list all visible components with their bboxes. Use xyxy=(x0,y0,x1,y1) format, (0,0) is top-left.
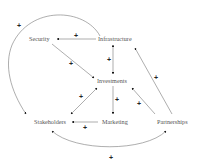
node-marketing: Marketing xyxy=(102,118,128,125)
polarity-investments-marketing: + xyxy=(115,96,119,103)
node-partnerships: Partnerships xyxy=(157,118,188,125)
polarity-security-investments: + xyxy=(69,60,73,67)
node-investments: Investments xyxy=(97,77,127,84)
polarity-partnerships-investments: + xyxy=(137,100,141,107)
polarity-partnerships-infrastructure: + xyxy=(154,74,158,81)
edge-stakeholders-investments xyxy=(71,88,97,114)
polarity-marketing-stakeholders: + xyxy=(83,124,87,131)
polarity-stakeholders-partnerships: + xyxy=(109,154,113,161)
node-security: Security xyxy=(29,35,51,42)
edge-stakeholders-partnerships xyxy=(52,131,166,147)
polarity-infrastructure-investments: + xyxy=(107,56,111,63)
polarity-stakeholders-investments: + xyxy=(79,93,83,100)
polarity-infrastructure-stakeholders: + xyxy=(17,22,21,29)
causal-loop-diagram: + + + + + + + + + + Security Infrastruct… xyxy=(0,0,200,162)
node-infrastructure: Infrastructure xyxy=(98,35,132,42)
polarity-infrastructure-security: + xyxy=(74,32,78,39)
edge-partnerships-investments xyxy=(132,88,155,114)
node-stakeholders: Stakeholders xyxy=(34,118,67,125)
